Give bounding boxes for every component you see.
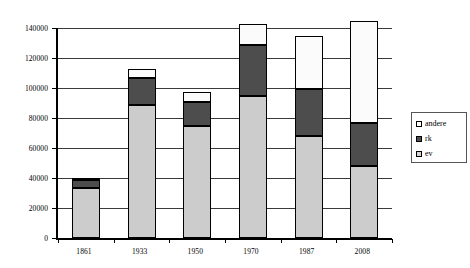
bar-segment-ev[interactable] xyxy=(295,136,323,238)
bar-segment-ev[interactable] xyxy=(72,188,100,238)
x-tickmark xyxy=(169,239,170,243)
y-tickmark xyxy=(52,28,57,29)
x-tickmark xyxy=(114,239,115,243)
y-axis-tick-label: 20000 xyxy=(0,205,48,213)
bar-segment-rk[interactable] xyxy=(239,45,267,95)
bar-group[interactable] xyxy=(128,69,156,238)
y-tickmark xyxy=(52,58,57,59)
y-tickmark xyxy=(52,148,57,149)
bar-segment-ev[interactable] xyxy=(128,105,156,239)
legend-label: ev xyxy=(425,150,433,158)
bar-segment-andere[interactable] xyxy=(239,24,267,46)
legend-label: andere xyxy=(425,120,446,128)
x-axis-tick-label: 1950 xyxy=(167,248,223,256)
y-tickmark xyxy=(52,208,57,209)
y-tickmark xyxy=(52,178,57,179)
x-axis-tick-label: 1933 xyxy=(112,248,168,256)
gridline-40000 xyxy=(58,178,392,179)
y-tickmark xyxy=(52,88,57,89)
bar-segment-andere[interactable] xyxy=(350,21,378,124)
bar-segment-rk[interactable] xyxy=(72,180,100,188)
bar-group[interactable] xyxy=(350,21,378,239)
bar-segment-rk[interactable] xyxy=(295,89,323,136)
gridline-140000 xyxy=(58,28,392,29)
x-tickmark xyxy=(392,239,393,243)
bar-segment-rk[interactable] xyxy=(183,102,211,126)
legend-item-ev[interactable]: ev xyxy=(416,148,433,160)
x-axis-tick-label: 1861 xyxy=(56,248,112,256)
bar-segment-andere[interactable] xyxy=(295,36,323,89)
bar-group[interactable] xyxy=(183,92,211,238)
bar-group[interactable] xyxy=(239,24,267,239)
x-axis-tick-label: 2008 xyxy=(334,248,390,256)
x-tickmark xyxy=(58,239,59,243)
bar-segment-andere[interactable] xyxy=(183,92,211,102)
bar-segment-andere[interactable] xyxy=(128,69,156,77)
bar-segment-andere[interactable] xyxy=(72,178,100,180)
gridline-100000 xyxy=(58,88,392,89)
x-tickmark xyxy=(336,239,337,243)
stacked-bar-chart: 140000 120000 100000 80000 60000 40000 2… xyxy=(0,0,470,268)
gridline-60000 xyxy=(58,148,392,149)
bar-segment-rk[interactable] xyxy=(350,123,378,166)
y-axis-tick-label: 100000 xyxy=(0,85,48,93)
bar-group[interactable] xyxy=(295,36,323,238)
y-axis-tick-label: 60000 xyxy=(0,145,48,153)
x-axis-tick-label: 1987 xyxy=(279,248,335,256)
bar-segment-rk[interactable] xyxy=(128,78,156,105)
legend-swatch-rk-icon xyxy=(416,136,422,142)
gridline-80000 xyxy=(58,118,392,119)
x-tickmark xyxy=(225,239,226,243)
x-tickmark xyxy=(281,239,282,243)
y-axis-tick-label: 0 xyxy=(0,235,48,243)
legend-item-andere[interactable]: andere xyxy=(416,118,446,130)
plot-area xyxy=(56,28,392,240)
gridline-20000 xyxy=(58,208,392,209)
legend-item-rk[interactable]: rk xyxy=(416,133,432,145)
y-axis-tick-label: 140000 xyxy=(0,25,48,33)
y-tickmark xyxy=(52,118,57,119)
y-axis-tick-label: 120000 xyxy=(0,55,48,63)
bar-segment-ev[interactable] xyxy=(350,166,378,238)
y-axis-tick-label: 80000 xyxy=(0,115,48,123)
legend-swatch-andere-icon xyxy=(416,121,422,127)
y-axis-tick-label: 40000 xyxy=(0,175,48,183)
y-tickmark xyxy=(52,238,57,239)
bar-group[interactable] xyxy=(72,178,100,238)
bar-segment-ev[interactable] xyxy=(239,96,267,239)
legend-swatch-ev-icon xyxy=(416,151,422,157)
chart-legend: andere rk ev xyxy=(411,112,467,163)
legend-label: rk xyxy=(425,135,432,143)
x-axis-tick-label: 1970 xyxy=(223,248,279,256)
gridline-120000 xyxy=(58,58,392,59)
bar-segment-ev[interactable] xyxy=(183,126,211,239)
